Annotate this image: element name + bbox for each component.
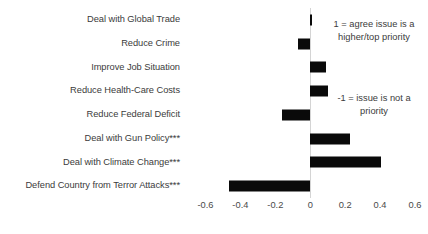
bar-chart: Deal with Global Trade Reduce Crime Impr… [0,0,428,234]
bar-row [188,56,422,80]
category-label: Deal with Climate Change*** [0,151,186,175]
category-axis-labels: Deal with Global Trade Reduce Crime Impr… [0,8,186,198]
x-tick-label: 0.2 [339,200,352,210]
x-tick-label: -0.2 [267,200,283,210]
bar [310,157,381,168]
x-tick-label: 0 [308,200,313,210]
bar [310,62,326,73]
category-label: Deal with Gun Policy*** [0,127,186,151]
annotation-negative-scale: -1 = issue is not a priority [326,92,422,118]
bar-row [188,174,422,198]
category-label: Reduce Crime [0,32,186,56]
bar [310,133,349,144]
category-label: Reduce Health-Care Costs [0,79,186,103]
x-tick-label: 0.6 [409,200,422,210]
bar-row [188,151,422,175]
category-label: Deal with Global Trade [0,8,186,32]
bar [282,109,310,120]
bar-row [188,127,422,151]
x-tick-label: -0.4 [232,200,248,210]
category-label: Reduce Federal Deficit [0,103,186,127]
category-label: Defend Country from Terror Attacks*** [0,174,186,198]
annotation-positive-scale: 1 = agree issue is a higher/top priority [326,18,422,44]
x-tick-label: 0.4 [374,200,387,210]
x-axis: -0.6 -0.4 -0.2 0 0.2 0.4 0.6 [188,200,422,220]
bar [310,14,312,25]
bar [298,38,310,49]
category-label: Improve Job Situation [0,56,186,80]
bar [229,181,311,192]
x-tick-label: -0.6 [197,200,213,210]
